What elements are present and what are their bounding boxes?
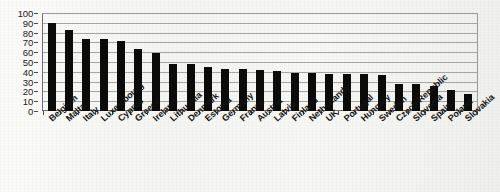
y-tick-mark-0 bbox=[34, 111, 38, 112]
y-tick-mark-60 bbox=[34, 52, 38, 53]
y-axis: 0102030405060708090100 bbox=[0, 13, 38, 111]
y-tick-label-80: 80 bbox=[23, 27, 33, 38]
y-tick-mark-20 bbox=[34, 91, 38, 92]
y-tick-mark-100 bbox=[34, 13, 38, 14]
y-tick-mark-70 bbox=[34, 42, 38, 43]
y-tick-mark-30 bbox=[34, 82, 38, 83]
y-tick-label-100: 100 bbox=[18, 8, 33, 19]
y-tick-mark-10 bbox=[34, 101, 38, 102]
y-tick-mark-50 bbox=[34, 62, 38, 63]
y-tick-mark-40 bbox=[34, 72, 38, 73]
y-tick-label-70: 70 bbox=[23, 37, 33, 48]
y-tick-label-50: 50 bbox=[23, 57, 33, 68]
x-tick-0 bbox=[43, 111, 44, 115]
y-tick-mark-90 bbox=[34, 23, 38, 24]
y-tick-label-90: 90 bbox=[23, 17, 33, 28]
x-axis-labels: BelgiumMaltaItalyLuxembourgCyprusGreeceI… bbox=[0, 116, 500, 192]
bar-chart: 0102030405060708090100 BelgiumMaltaItaly… bbox=[0, 0, 500, 192]
y-tick-label-20: 20 bbox=[23, 86, 33, 97]
y-tick-label-60: 60 bbox=[23, 47, 33, 58]
y-tick-label-30: 30 bbox=[23, 76, 33, 87]
y-tick-label-0: 0 bbox=[28, 106, 33, 117]
bar-belgium bbox=[48, 23, 56, 111]
y-tick-label-10: 10 bbox=[23, 96, 33, 107]
y-tick-mark-80 bbox=[34, 33, 38, 34]
bar-italy bbox=[82, 39, 90, 111]
y-tick-label-40: 40 bbox=[23, 66, 33, 77]
bar-luxembourg bbox=[100, 39, 108, 111]
